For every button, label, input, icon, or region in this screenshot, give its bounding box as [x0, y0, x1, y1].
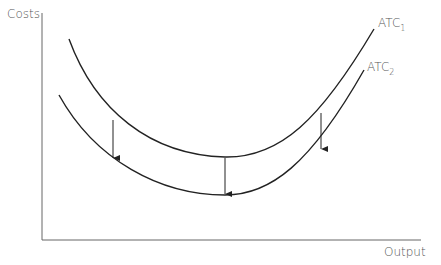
cost-diagram: [0, 0, 441, 265]
atc1-curve: [69, 29, 374, 157]
atc1-label: ATC1: [378, 16, 405, 30]
atc2-curve: [59, 70, 364, 195]
atc2-label: ATC2: [367, 60, 394, 74]
y-axis-label: Costs: [7, 7, 40, 21]
x-axis-label: Output: [384, 245, 426, 259]
